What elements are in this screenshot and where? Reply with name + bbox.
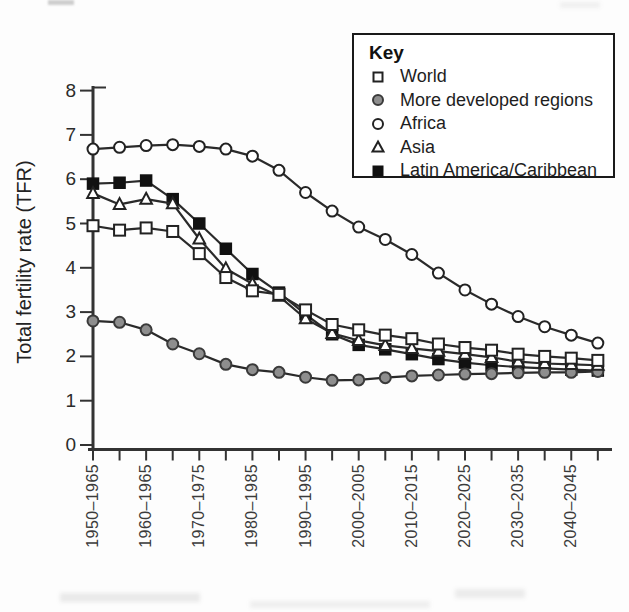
x-tick-label: 2000–2005 (350, 464, 368, 572)
x-tick-label: 1950–1965 (84, 464, 102, 572)
y-tick-label: 8 (46, 80, 76, 102)
x-tick-label: 1970–1975 (190, 464, 208, 572)
legend-item-more-developed-regions: More developed regions (367, 89, 613, 113)
latin-america-square-marker-icon (367, 163, 389, 179)
legend-item-label: Latin America/Caribbean (400, 160, 597, 181)
africa-circle-marker-icon (367, 116, 389, 132)
y-tick-label: 1 (46, 390, 76, 412)
x-tick-label: 1960–1965 (137, 464, 155, 572)
legend-item-label: Africa (400, 113, 446, 134)
y-tick-label: 7 (46, 124, 76, 146)
legend-title: Key (369, 42, 613, 64)
legend-item-label: World (400, 66, 447, 87)
legend-item-latin-america-caribbean: Latin America/Caribbean (367, 159, 613, 183)
y-tick-label: 6 (46, 168, 76, 190)
y-tick-label: 3 (46, 301, 76, 323)
x-tick-label: 2020–2025 (456, 464, 474, 572)
legend-item-label: Asia (400, 137, 435, 158)
y-tick-label: 5 (46, 213, 76, 235)
x-tick-label: 1990–1995 (297, 464, 315, 572)
more-developed-regions-circle-marker-icon (367, 92, 389, 108)
x-tick-label: 2040–2045 (562, 464, 580, 572)
legend-item-asia: Asia (367, 136, 613, 160)
asia-triangle-marker-icon (367, 139, 389, 155)
x-tick-label: 2010–2015 (403, 464, 421, 572)
legend: Key World More developed regions Africa … (352, 33, 615, 178)
y-tick-label: 4 (46, 257, 76, 279)
legend-item-world: World (367, 65, 613, 89)
y-axis-title: Total fertility rate (TFR) (13, 117, 35, 407)
legend-item-label: More developed regions (400, 90, 593, 111)
world-square-marker-icon (367, 69, 389, 85)
y-tick-label: 2 (46, 345, 76, 367)
y-tick-label: 0 (46, 434, 76, 456)
x-tick-label: 1980–1985 (243, 464, 261, 572)
legend-item-africa: Africa (367, 112, 613, 136)
figure: Total fertility rate (TFR) 0123456781950… (0, 0, 629, 612)
x-tick-label: 2030–2035 (509, 464, 527, 572)
